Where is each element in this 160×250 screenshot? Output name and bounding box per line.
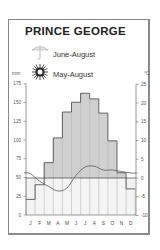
temperature-bar <box>44 163 53 178</box>
temperature-bar <box>53 138 62 178</box>
month-label: O <box>111 221 115 226</box>
right-tick-label: 0 <box>141 176 144 181</box>
climate-chart: 0255075100125150175 -10-50510152025 JFMA… <box>0 0 160 250</box>
month-label: M <box>65 221 69 226</box>
right-tick-label: 10 <box>141 138 147 143</box>
temperature-bars <box>26 93 135 215</box>
right-tick-label: 5 <box>141 157 144 162</box>
temperature-bar <box>26 178 35 199</box>
right-tick-label: -10 <box>141 213 148 218</box>
temperature-bar <box>108 141 117 178</box>
right-axis: -10-50510152025 <box>136 82 148 218</box>
month-label: J <box>29 221 32 226</box>
temperature-bar <box>99 113 108 178</box>
temperature-bar <box>117 173 126 178</box>
month-label: M <box>47 221 51 226</box>
month-label: A <box>56 221 60 226</box>
left-tick-label: 0 <box>18 213 21 218</box>
left-axis: 0255075100125150175 <box>13 81 26 217</box>
left-tick-label: 50 <box>16 175 22 180</box>
month-label: F <box>38 221 41 226</box>
right-tick-label: 20 <box>141 101 147 106</box>
left-tick-label: 150 <box>13 100 21 105</box>
month-label: J <box>84 221 87 226</box>
month-label: N <box>120 221 124 226</box>
left-tick-label: 25 <box>16 194 22 199</box>
right-tick-label: -5 <box>141 194 146 199</box>
right-tick-label: 25 <box>141 82 147 87</box>
right-tick-label: 15 <box>141 119 147 124</box>
left-tick-label: 175 <box>13 81 21 86</box>
temperature-bar <box>72 102 81 178</box>
temperature-bar <box>62 112 71 178</box>
left-tick-label: 125 <box>13 119 21 124</box>
left-tick-label: 100 <box>13 138 21 143</box>
month-labels: JFMAMJJASOND <box>29 221 133 226</box>
temperature-bar <box>126 178 135 189</box>
temperature-bar <box>81 93 90 178</box>
month-label: J <box>75 221 78 226</box>
month-label: S <box>102 221 105 226</box>
left-tick-label: 75 <box>16 156 22 161</box>
month-label: D <box>129 221 133 226</box>
month-label: A <box>93 221 97 226</box>
